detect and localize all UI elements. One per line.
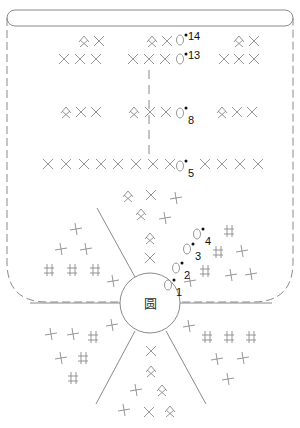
kite-stitch-icon <box>123 191 133 202</box>
x-stitch-icon <box>128 54 138 64</box>
kite-stitch-icon <box>79 36 89 47</box>
x-stitch-icon <box>91 54 101 64</box>
gate-stitch-icon <box>78 352 88 364</box>
x-stitch-icon <box>131 159 141 169</box>
start-dot-icon <box>185 160 188 163</box>
kite-stitch-icon <box>136 209 146 220</box>
plus-stitch-icon <box>106 319 118 331</box>
x-stitch-icon <box>235 159 245 169</box>
x-stitch-icon <box>145 253 155 263</box>
plus-stitch-icon <box>45 328 57 340</box>
round-marker-icon <box>177 35 184 45</box>
stitch-symbols <box>43 36 263 417</box>
x-stitch-icon <box>160 54 170 64</box>
plus-stitch-icon <box>67 328 79 340</box>
plus-stitch-icon <box>159 212 171 224</box>
x-stitch-icon <box>161 107 171 117</box>
divider-line <box>96 331 135 404</box>
gate-stitch-icon <box>44 264 54 276</box>
gate-stitch-icon <box>90 264 100 276</box>
x-stitch-icon <box>79 159 89 169</box>
plus-stitch-icon <box>237 352 249 364</box>
start-dot-icon <box>173 279 176 282</box>
gate-stitch-icon <box>67 264 77 276</box>
kite-stitch-icon <box>147 36 157 47</box>
kite-stitch-icon <box>146 366 156 377</box>
round-number: 14 <box>188 30 200 42</box>
round-number: 2 <box>184 269 190 281</box>
plus-stitch-icon <box>170 192 182 204</box>
x-stitch-icon <box>145 107 155 117</box>
x-stitch-icon <box>232 107 242 117</box>
x-stitch-icon <box>247 107 257 117</box>
round-marker-icon <box>177 54 184 64</box>
crochet-chart-diagram: 圆 1413854321 <box>0 0 300 428</box>
x-stitch-icon <box>59 54 69 64</box>
round-labels: 1413854321 <box>165 30 212 298</box>
x-stitch-icon <box>200 159 210 169</box>
x-stitch-icon <box>113 159 123 169</box>
kite-stitch-icon <box>217 107 227 118</box>
round-marker-icon <box>173 263 180 273</box>
center-label: 圆 <box>144 296 157 311</box>
gate-stitch-icon <box>88 331 98 343</box>
x-stitch-icon <box>144 407 154 417</box>
start-dot-icon <box>181 262 184 265</box>
x-stitch-icon <box>253 159 263 169</box>
plus-stitch-icon <box>107 275 119 287</box>
round-marker-icon <box>177 108 184 118</box>
x-stitch-icon <box>75 54 85 64</box>
x-stitch-icon <box>249 54 259 64</box>
round-marker-icon <box>177 161 184 171</box>
round-number: 5 <box>188 167 194 179</box>
round-number: 4 <box>205 235 211 247</box>
plus-stitch-icon <box>245 268 257 280</box>
kite-stitch-icon <box>157 385 167 396</box>
kite-stitch-icon <box>145 233 155 244</box>
x-stitch-icon <box>146 346 156 356</box>
round-marker-icon <box>194 229 201 239</box>
x-stitch-icon <box>43 159 53 169</box>
x-stitch-icon <box>219 54 229 64</box>
x-stitch-icon <box>61 159 71 169</box>
kite-stitch-icon <box>129 107 139 118</box>
plus-stitch-icon <box>183 320 195 332</box>
x-stitch-icon <box>146 190 156 200</box>
plus-stitch-icon <box>236 245 248 257</box>
kite-stitch-icon <box>165 406 175 417</box>
gate-stitch-icon <box>68 372 78 384</box>
gate-stitch-icon <box>224 331 234 343</box>
plus-stitch-icon <box>70 223 82 235</box>
plus-stitch-icon <box>130 384 142 396</box>
gate-stitch-icon <box>224 225 234 237</box>
plus-stitch-icon <box>222 373 234 385</box>
plus-stitch-icon <box>55 243 67 255</box>
x-stitch-icon <box>234 54 244 64</box>
divider-line <box>97 208 135 277</box>
x-stitch-icon <box>249 36 259 46</box>
x-stitch-icon <box>94 36 104 46</box>
x-stitch-icon <box>96 159 106 169</box>
kite-stitch-icon <box>234 36 244 47</box>
round-marker-icon <box>184 244 191 254</box>
x-stitch-icon <box>148 159 158 169</box>
kite-stitch-icon <box>61 107 71 118</box>
start-dot-icon <box>192 243 195 246</box>
x-stitch-icon <box>217 159 227 169</box>
divider-line <box>166 331 206 404</box>
start-dot-icon <box>185 107 188 110</box>
x-stitch-icon <box>144 54 154 64</box>
round-number: 13 <box>188 49 200 61</box>
plus-stitch-icon <box>55 352 67 364</box>
x-stitch-icon <box>76 107 86 117</box>
x-stitch-icon <box>165 159 175 169</box>
gate-stitch-icon <box>200 265 210 277</box>
gate-stitch-icon <box>213 246 223 258</box>
plus-stitch-icon <box>225 269 237 281</box>
top-band <box>7 10 293 26</box>
x-stitch-icon <box>162 36 172 46</box>
gate-stitch-icon <box>246 331 256 343</box>
round-number: 1 <box>176 286 182 298</box>
x-stitch-icon <box>91 107 101 117</box>
plus-stitch-icon <box>211 353 223 365</box>
